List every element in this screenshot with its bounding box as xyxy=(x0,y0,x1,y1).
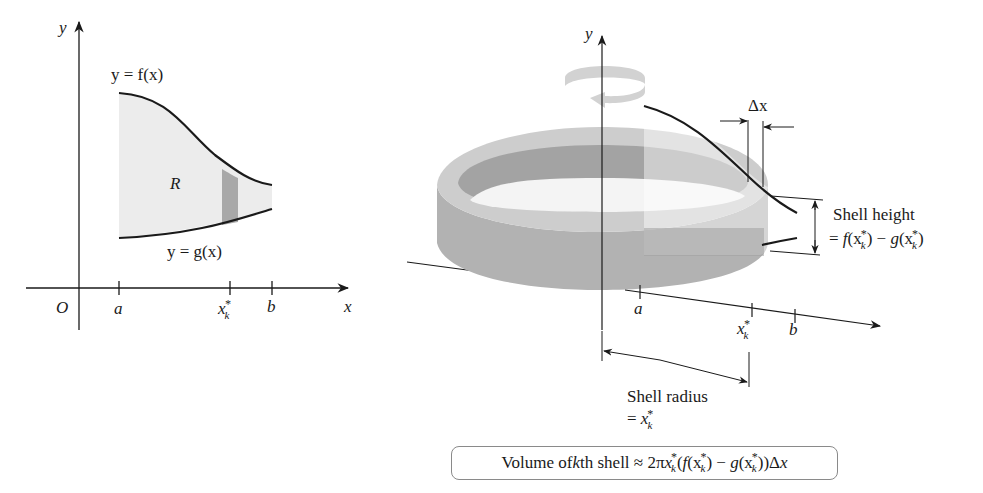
left-y-axis-label: y xyxy=(59,19,67,36)
shell-height-title: Shell height xyxy=(833,206,915,223)
left-x-axis-label: x xyxy=(344,298,352,315)
rotation-arrow-icon xyxy=(565,66,645,108)
origin-label: O xyxy=(56,299,68,316)
delta-x-label: Δx xyxy=(748,97,767,114)
shell-radius-title: Shell radius xyxy=(627,388,708,405)
left-tick-b: b xyxy=(267,298,276,315)
volume-formula-box: Volume of kth shell ≈ 2πxk*(f(xk*) − g(x… xyxy=(451,446,838,480)
right-tick-b: b xyxy=(789,321,798,338)
right-y-axis-label: y xyxy=(585,25,593,42)
representative-strip xyxy=(222,169,238,225)
right-tick-xk: xk* xyxy=(737,320,749,337)
left-tick-a: a xyxy=(114,300,123,317)
left-tick-xk: xk* xyxy=(218,300,230,317)
region-label: R xyxy=(170,175,180,192)
shell-radius-value: = xk* xyxy=(627,410,653,427)
right-tick-a: a xyxy=(634,300,643,317)
shell-height-formula: = f(xk*) − g(xk*) xyxy=(829,230,924,247)
curve-f-label: y = f(x) xyxy=(111,66,163,83)
curve-g-label: y = g(x) xyxy=(167,243,222,260)
